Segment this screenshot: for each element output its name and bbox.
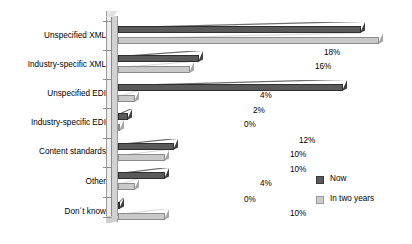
bar-front-face [118, 66, 190, 73]
bar-future [118, 91, 139, 102]
bar-now [118, 198, 124, 209]
category-label: Unspecified XML [0, 31, 106, 40]
bar-future [118, 209, 169, 220]
bar-front-face [118, 213, 165, 220]
bar-front-face [118, 84, 343, 91]
bar-front-face [118, 37, 379, 44]
axis-tick [103, 50, 112, 51]
axis-tick [103, 79, 112, 80]
legend-label: In two years [330, 194, 374, 204]
axis-spine-front [111, 16, 118, 222]
category-label: Content standards [0, 147, 106, 156]
bar-front-face [118, 172, 165, 179]
bar-front-face [118, 154, 165, 161]
bar-now [118, 51, 203, 62]
legend-swatch-icon [316, 176, 324, 184]
bar-now [118, 22, 365, 33]
category-label: Industry-specific XML [0, 60, 106, 69]
bar-future [118, 33, 383, 44]
bar-value-label: 0% [244, 195, 256, 204]
axis-tick [103, 21, 112, 22]
category-label: Industry-specific EDI [0, 118, 106, 127]
bar-value-label: 16% [315, 62, 331, 71]
bar-front-face [118, 143, 174, 150]
bar-front-face [118, 183, 135, 190]
bar-future [118, 179, 139, 190]
bar-front-face [118, 95, 135, 102]
bar-now [118, 139, 178, 150]
axis-tick [103, 138, 112, 139]
bar-chart: Unspecified XML Industry-specific XML Un… [0, 0, 412, 244]
bar-future [118, 120, 124, 131]
axis-tick [103, 197, 112, 198]
bar-value-label: 0% [244, 120, 256, 129]
bar-now [118, 109, 132, 120]
bar-value-label: 2% [253, 106, 265, 115]
bar-value-label: 4% [260, 91, 272, 100]
bar-front-face [118, 113, 128, 120]
bar-front-face [118, 202, 120, 209]
bar-future [118, 62, 194, 73]
bar-front-face [118, 26, 361, 33]
bar-value-label: 4% [260, 179, 272, 188]
category-label: Don´t know [0, 207, 106, 216]
bar-now [118, 80, 347, 91]
category-label: Unspecified EDI [0, 89, 106, 98]
axis-tick [103, 108, 112, 109]
bar-now [118, 168, 169, 179]
bar-future [118, 150, 169, 161]
category-axis-labels: Unspecified XML Industry-specific XML Un… [0, 0, 106, 244]
legend-label: Now [330, 174, 346, 184]
bar-front-face [118, 55, 199, 62]
axis-tick [103, 217, 112, 218]
bar-value-label: 10% [290, 209, 306, 218]
bar-front-face [118, 124, 120, 131]
bar-value-label: 12% [299, 136, 315, 145]
bar-value-label: 18% [324, 48, 340, 57]
bar-value-label: 10% [290, 165, 306, 174]
axis-tick [103, 167, 112, 168]
bar-value-label: 10% [290, 150, 306, 159]
legend-swatch-icon [316, 196, 324, 204]
category-label: Other [0, 177, 106, 186]
